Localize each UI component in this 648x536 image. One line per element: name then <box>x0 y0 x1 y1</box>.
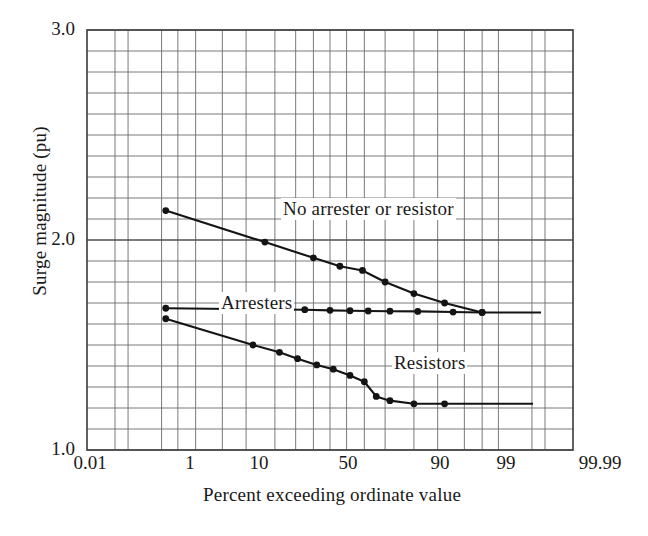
data-point <box>411 400 418 407</box>
series-line <box>166 308 482 312</box>
data-point <box>441 300 448 307</box>
data-point <box>327 307 334 314</box>
x-tick-label-0.01: 0.01 <box>73 452 106 474</box>
data-point <box>162 305 169 312</box>
data-point <box>301 306 308 313</box>
data-point <box>359 267 366 274</box>
data-point <box>347 372 354 379</box>
y-tick-label-1: 1.0 <box>31 438 75 460</box>
chart-figure: Surge magnitude (pu) Percent exceeding o… <box>0 0 648 536</box>
x-tick-label-99: 99 <box>497 452 516 474</box>
data-point <box>310 254 317 261</box>
data-point <box>162 207 169 214</box>
series-line <box>166 211 482 313</box>
annotation-resistors: Resistors <box>392 352 467 374</box>
annotation-arresters: Arresters <box>219 292 294 314</box>
y-tick-label-3: 3.0 <box>31 18 75 40</box>
data-point <box>414 308 421 315</box>
series-no-arrester-or-resistor <box>162 207 485 316</box>
data-point <box>361 378 368 385</box>
data-point <box>365 308 372 315</box>
data-point <box>276 349 283 356</box>
x-tick-label-10: 10 <box>250 452 269 474</box>
data-point <box>373 393 380 400</box>
series-resistors <box>162 315 533 407</box>
data-point <box>387 397 394 404</box>
data-point <box>382 279 389 286</box>
data-point <box>162 315 169 322</box>
data-point <box>294 355 301 362</box>
y-tick-label-2: 2.0 <box>31 228 75 250</box>
data-point <box>450 309 457 316</box>
data-point <box>411 290 418 297</box>
data-point <box>313 362 320 369</box>
data-point <box>250 342 257 349</box>
data-point <box>441 400 448 407</box>
annotation-no-arrester: No arrester or resistor <box>281 198 456 220</box>
data-point <box>261 239 268 246</box>
x-tick-label-50: 50 <box>339 452 358 474</box>
x-tick-label-99.99: 99.99 <box>579 452 622 474</box>
x-tick-label-90: 90 <box>431 452 450 474</box>
data-point <box>387 308 394 315</box>
data-point <box>347 307 354 314</box>
data-point <box>330 366 337 373</box>
data-point <box>336 263 343 270</box>
data-point <box>479 309 486 316</box>
y-axis-label: Surge magnitude (pu) <box>29 81 51 341</box>
x-tick-label-1: 1 <box>185 452 195 474</box>
x-axis-label: Percent exceeding ordinate value <box>92 484 572 506</box>
